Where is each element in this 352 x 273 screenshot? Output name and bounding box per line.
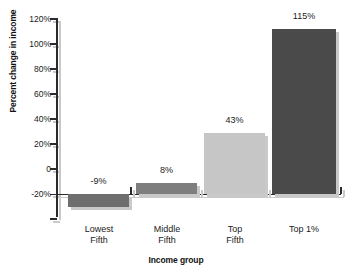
x-tick-label-line: Lowest bbox=[64, 224, 134, 235]
x-tick-label-line: Fifth bbox=[200, 235, 270, 246]
x-tick-label-line: Top 1% bbox=[269, 224, 339, 235]
y-tick-label: 60% bbox=[17, 90, 51, 99]
y-tick-mark bbox=[50, 168, 57, 170]
x-tick-mark-shadow bbox=[269, 190, 271, 197]
y-tick-mark bbox=[50, 194, 57, 196]
x-tick-label-line: Middle bbox=[132, 224, 202, 235]
y-tick-mark bbox=[50, 143, 57, 145]
x-tick-label-top-one-percent: Top 1% bbox=[269, 224, 339, 235]
y-axis-tick-labels: 120% 100% 80% 60% 40% 20% 0 -20% bbox=[17, 0, 51, 273]
x-tick-mark bbox=[130, 187, 132, 194]
bar-top-fifth bbox=[204, 133, 265, 195]
y-tick-mark-shadow bbox=[53, 221, 60, 223]
x-tick-mark-shadow bbox=[201, 190, 203, 197]
y-tick-label: 40% bbox=[17, 115, 51, 124]
y-tick-label: 100% bbox=[17, 40, 51, 49]
y-tick-mark bbox=[50, 93, 57, 95]
x-tick-label-lowest-fifth: Lowest Fifth bbox=[64, 224, 134, 245]
bar-fill bbox=[204, 133, 265, 195]
x-tick-mark-shadow bbox=[133, 190, 135, 197]
x-tick-label-line: Fifth bbox=[132, 235, 202, 246]
value-label-middle-fifth: 8% bbox=[136, 165, 197, 175]
y-tick-label: 80% bbox=[17, 65, 51, 74]
bar-chart: Percent change in income 120% 100% 80% 6… bbox=[0, 0, 352, 273]
y-tick-label: 120% bbox=[17, 15, 51, 24]
bar-top-one-percent bbox=[272, 29, 336, 194]
y-tick-mark bbox=[50, 68, 57, 70]
y-tick-mark bbox=[50, 43, 57, 45]
y-tick-label: 20% bbox=[17, 140, 51, 149]
y-tick-mark bbox=[50, 18, 57, 20]
x-tick-label-middle-fifth: Middle Fifth bbox=[132, 224, 202, 245]
bar-fill bbox=[68, 194, 129, 207]
y-tick-mark bbox=[50, 218, 57, 220]
bar-fill bbox=[272, 29, 336, 194]
y-tick-mark bbox=[50, 118, 57, 120]
value-label-lowest-fifth: -9% bbox=[68, 176, 129, 186]
bar-middle-fifth bbox=[136, 183, 197, 195]
bar-fill bbox=[136, 183, 197, 195]
x-axis-title: Income group bbox=[0, 255, 352, 265]
y-tick-label: 0 bbox=[17, 165, 51, 174]
value-label-top-fifth: 43% bbox=[204, 115, 265, 125]
y-tick-label: -20% bbox=[17, 190, 51, 199]
bar-lowest-fifth bbox=[68, 194, 129, 207]
x-tick-label-line: Fifth bbox=[64, 235, 134, 246]
x-tick-label-line: Top bbox=[200, 224, 270, 235]
x-tick-mark-shadow bbox=[343, 190, 345, 197]
x-tick-mark bbox=[340, 187, 342, 194]
x-tick-label-top-fifth: Top Fifth bbox=[200, 224, 270, 245]
value-label-top-one-percent: 115% bbox=[272, 11, 336, 21]
